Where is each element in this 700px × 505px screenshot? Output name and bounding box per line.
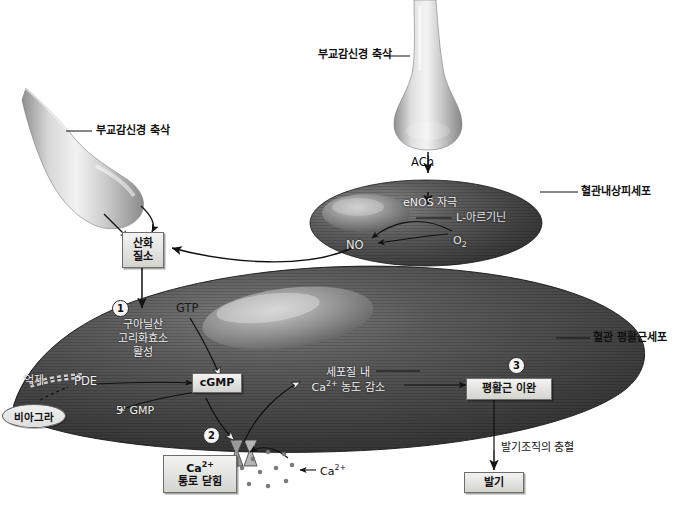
calcium-ion-label: Ca2+ bbox=[320, 463, 346, 478]
calcium-ion bbox=[266, 484, 270, 488]
cytosolic-calcium-label: 세포질 내 Ca2+ 농도 감소 bbox=[296, 366, 400, 395]
inhibition-label: 억제 bbox=[24, 374, 44, 388]
engorgement-label: 발기조직의 충혈 bbox=[501, 441, 575, 455]
ach-label: ACh bbox=[411, 155, 434, 169]
left-axon-terminal bbox=[22, 88, 144, 229]
calcium-ion bbox=[251, 457, 255, 461]
viagra-label: 비아그라 bbox=[2, 404, 66, 428]
diagram-canvas: 부교감신경 축삭 부교감신경 축삭 ACh 혈관내상피세포 eNOS 자극 L-… bbox=[0, 0, 700, 505]
right-axon-label: 부교감신경 축삭 bbox=[318, 48, 392, 62]
step-1-line3: 활성 bbox=[133, 346, 153, 359]
l-arginine-label: L-아르기닌 bbox=[456, 211, 506, 225]
step-1-line1: 구아닐산 bbox=[123, 318, 163, 331]
smooth-muscle-relaxation-box: 평활근 이완 bbox=[466, 378, 552, 400]
nitric-oxide-line1: 산화 bbox=[133, 237, 153, 250]
step-2-number: 2 bbox=[203, 427, 220, 444]
calcium-ion bbox=[247, 482, 251, 486]
calcium-ion bbox=[240, 466, 244, 470]
pde-label: PDE bbox=[74, 374, 97, 388]
gtp-label: GTP bbox=[176, 301, 198, 315]
calcium-channel-box: Ca2+ 통로 닫힘 bbox=[163, 455, 237, 493]
calcium-channel-line1: Ca2+ bbox=[186, 460, 214, 475]
calcium-ion bbox=[266, 450, 270, 454]
endothelial-cell-shape bbox=[310, 180, 542, 266]
nitric-oxide-line2: 질소 bbox=[133, 250, 153, 263]
erection-box: 발기 bbox=[464, 472, 524, 493]
cytosolic-calcium-line2: Ca2+ 농도 감소 bbox=[311, 381, 384, 394]
right-axon-terminal bbox=[394, 0, 462, 150]
smooth-muscle-cell-label: 혈관 평활근세포 bbox=[593, 331, 667, 345]
oxygen-label: O2 bbox=[453, 234, 467, 250]
calcium-ion bbox=[274, 466, 278, 470]
left-axon-label: 부교감신경 축삭 bbox=[96, 124, 170, 138]
endothelial-cell-label: 혈관내상피세포 bbox=[581, 185, 651, 199]
calcium-ion bbox=[290, 463, 294, 467]
calcium-ion bbox=[282, 452, 286, 456]
step-1-label: 구아닐산 고리화효소 활성 bbox=[104, 318, 182, 359]
artwork-layer bbox=[0, 0, 700, 505]
nitric-oxide-box: 산화 질소 bbox=[122, 232, 164, 268]
calcium-ion bbox=[258, 470, 262, 474]
cgmp-box: cGMP bbox=[192, 373, 242, 393]
gmp5-label: 5' GMP bbox=[116, 404, 154, 418]
no-label: NO bbox=[346, 238, 364, 252]
step-3-number: 3 bbox=[508, 357, 525, 374]
calcium-ion bbox=[284, 479, 288, 483]
step-1-number: 1 bbox=[112, 300, 129, 317]
enos-label: eNOS 자극 bbox=[403, 196, 457, 210]
cytosolic-calcium-line1: 세포질 내 bbox=[326, 366, 370, 379]
step-1-line2: 고리화효소 bbox=[118, 332, 168, 345]
calcium-channel-line2: 통로 닫힘 bbox=[178, 475, 222, 488]
